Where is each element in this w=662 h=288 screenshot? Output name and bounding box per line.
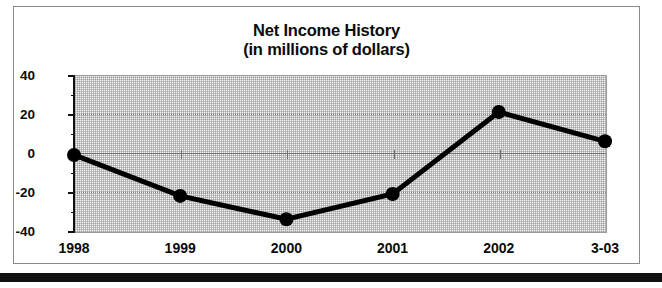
y-axis-label--40: -40 bbox=[0, 224, 35, 239]
y-axis-label-0: 0 bbox=[0, 146, 35, 161]
y-axis-label-20: 20 bbox=[0, 107, 35, 122]
x-axis-label-3-03: 3-03 bbox=[591, 240, 619, 256]
x-axis-label-2002: 2002 bbox=[483, 240, 514, 256]
y-tick-minor--10 bbox=[71, 173, 75, 174]
x-tick-2002 bbox=[500, 150, 501, 159]
y-tick-minor-30 bbox=[71, 95, 75, 96]
y-tick-40 bbox=[68, 75, 75, 77]
gridline-y--20 bbox=[75, 192, 606, 193]
gridline-y-20 bbox=[75, 114, 606, 115]
chart-title-block: Net Income History (in millions of dolla… bbox=[14, 21, 639, 59]
x-tick-2001 bbox=[394, 150, 395, 159]
chart-subtitle: (in millions of dollars) bbox=[14, 40, 639, 59]
x-axis-label-1999: 1999 bbox=[165, 240, 196, 256]
x-axis-label-2001: 2001 bbox=[377, 240, 408, 256]
y-tick--40 bbox=[68, 231, 75, 233]
gridline-y-0 bbox=[75, 153, 606, 154]
y-tick-minor-10 bbox=[71, 134, 75, 135]
y-tick--20 bbox=[68, 192, 75, 194]
x-axis-label-1998: 1998 bbox=[58, 240, 89, 256]
chart-title: Net Income History bbox=[14, 21, 639, 40]
chart-frame: Net Income History (in millions of dolla… bbox=[13, 6, 640, 264]
y-axis-label-40: 40 bbox=[0, 68, 35, 83]
y-tick-20 bbox=[68, 114, 75, 116]
y-tick-minor--30 bbox=[71, 212, 75, 213]
x-axis-label-2000: 2000 bbox=[271, 240, 302, 256]
x-tick-1999 bbox=[181, 150, 182, 159]
x-tick-2000 bbox=[287, 150, 288, 159]
y-axis-label--20: -20 bbox=[0, 185, 35, 200]
page-bottom-rule bbox=[0, 273, 662, 282]
y-tick-0 bbox=[68, 153, 75, 155]
y-axis-spine bbox=[73, 75, 75, 233]
plot-area bbox=[74, 75, 607, 233]
